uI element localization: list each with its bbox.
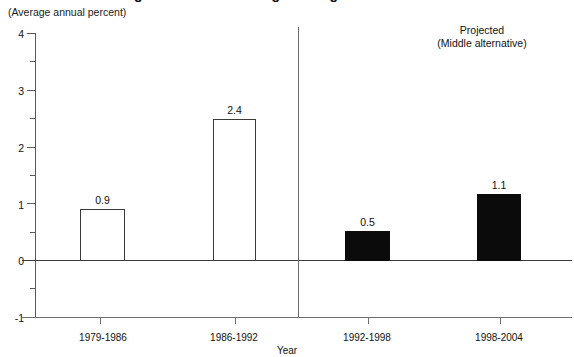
x-axis-title: Year bbox=[0, 345, 574, 356]
projected-annotation: Projected (Middle alternative) bbox=[392, 24, 572, 50]
x-tick-3 bbox=[368, 317, 369, 324]
y-tick-major-4 bbox=[27, 33, 36, 34]
bar-value-1998-2004: 1.1 bbox=[477, 179, 521, 191]
bar-1979-1986[interactable] bbox=[80, 209, 125, 261]
y-tick-minor-1-5 bbox=[30, 175, 36, 176]
x-category-label-2: 1986-1992 bbox=[193, 332, 275, 343]
y-tick-minor-3-5 bbox=[30, 61, 36, 62]
y-tick-major-3 bbox=[27, 90, 36, 91]
projected-annotation-line1: Projected bbox=[392, 24, 572, 37]
y-tick-label-4: 4 bbox=[2, 29, 24, 40]
x-tick-1 bbox=[100, 317, 101, 324]
y-tick-label-neg1: -1 bbox=[2, 313, 24, 324]
y-tick-minor-0-5 bbox=[30, 232, 36, 233]
y-tick-major-1 bbox=[27, 203, 36, 204]
bar-1998-2004[interactable] bbox=[477, 194, 521, 261]
x-tick-2 bbox=[235, 317, 236, 324]
x-tick-4 bbox=[500, 317, 501, 324]
x-category-label-3: 1992-1998 bbox=[326, 332, 408, 343]
chart-subtitle: (Average annual percent) bbox=[8, 6, 126, 18]
y-tick-label-3: 3 bbox=[2, 86, 24, 97]
y-tick-label-1: 1 bbox=[2, 200, 24, 211]
y-tick-minor-2-5 bbox=[30, 118, 36, 119]
bar-value-1992-1998: 0.5 bbox=[345, 216, 390, 228]
bar-1986-1992[interactable] bbox=[213, 119, 256, 261]
x-category-label-1: 1979-1986 bbox=[62, 332, 144, 343]
chart-bottom-line bbox=[22, 317, 572, 318]
bar-value-1979-1986: 0.9 bbox=[80, 194, 125, 206]
chart-title: Average Annual Percentage Change in the … bbox=[0, 0, 574, 2]
y-tick-minor-neg0-5 bbox=[30, 288, 36, 289]
y-tick-major-2 bbox=[27, 147, 36, 148]
y-tick-label-0: 0 bbox=[2, 256, 24, 267]
projection-divider-line bbox=[298, 27, 299, 318]
x-category-label-4: 1998-2004 bbox=[458, 332, 540, 343]
bar-chart: Average Annual Percentage Change in the … bbox=[0, 0, 574, 357]
y-axis-labels: 4 3 2 1 0 -1 bbox=[0, 0, 24, 357]
projected-annotation-line2: (Middle alternative) bbox=[392, 37, 572, 50]
bar-1992-1998[interactable] bbox=[345, 231, 390, 261]
bar-value-1986-1992: 2.4 bbox=[213, 104, 256, 116]
y-tick-label-2: 2 bbox=[2, 143, 24, 154]
